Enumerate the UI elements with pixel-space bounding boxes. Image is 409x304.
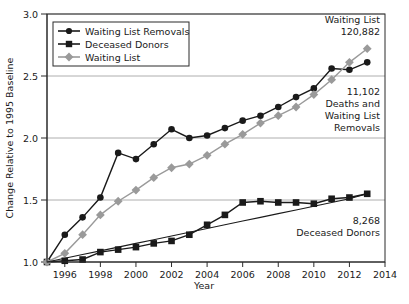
x-tick-labels: 1996199820002002200420062008201020122014 — [53, 269, 397, 280]
x-tick-label-2010: 2010 — [302, 269, 326, 280]
data-point — [293, 199, 300, 206]
y-tick-label-1-5: 1.5 — [23, 195, 38, 206]
donors-annotation-line-1: 8,268 — [353, 215, 380, 226]
chart-container: 3.0 2.5 2.0 1.5 1.0 19961998200020022004… — [0, 0, 409, 304]
removals-annotation-line-1: 11,102 — [347, 86, 380, 97]
legend-label-donors: Deceased Donors — [85, 39, 169, 50]
data-point — [79, 214, 86, 221]
x-tick-label-2004: 2004 — [195, 269, 219, 280]
y-tick-label-3-0: 3.0 — [23, 9, 38, 20]
data-point — [364, 59, 371, 66]
data-point — [275, 104, 282, 111]
donors-annotation-line-2: Deceased Donors — [296, 227, 380, 238]
x-tick-label-2012: 2012 — [337, 269, 361, 280]
chart-svg: 3.0 2.5 2.0 1.5 1.0 19961998200020022004… — [0, 0, 409, 304]
x-tick-label-2006: 2006 — [231, 269, 255, 280]
data-point — [150, 141, 157, 148]
y-axis-title: Change Relative to 1995 Baseline — [4, 57, 15, 218]
data-point — [97, 249, 104, 256]
legend-marker-square — [66, 41, 72, 47]
data-point — [346, 67, 353, 74]
legend-marker-circle — [66, 28, 72, 34]
y-tick-label-1-0: 1.0 — [23, 257, 38, 268]
data-point — [186, 135, 193, 142]
data-point — [239, 117, 246, 124]
data-point — [222, 212, 229, 219]
legend-label-waitlist: Waiting List — [85, 52, 141, 63]
data-point — [328, 65, 335, 72]
x-axis-title: Year — [193, 280, 214, 291]
data-point — [168, 126, 175, 133]
data-point — [257, 112, 264, 119]
data-point — [275, 199, 282, 206]
data-point — [204, 132, 211, 139]
x-tick-label-2008: 2008 — [266, 269, 290, 280]
x-tick-label-2000: 2000 — [124, 269, 148, 280]
x-tick-label-1996: 1996 — [53, 269, 77, 280]
removals-annotation-line-3: Waiting List — [325, 110, 381, 121]
y-tick-label-2-0: 2.0 — [23, 133, 38, 144]
data-point — [61, 231, 68, 238]
x-tick-label-2014: 2014 — [373, 269, 397, 280]
data-point — [239, 199, 246, 206]
chart-legend: Waiting List Removals Deceased Donors Wa… — [53, 22, 189, 66]
removals-annotation-line-4: Removals — [334, 122, 380, 133]
data-point — [168, 238, 175, 245]
data-point — [293, 94, 300, 101]
data-point — [115, 150, 122, 157]
data-point — [133, 244, 140, 251]
data-point — [257, 198, 264, 205]
removals-annotation-line-2: Deaths and — [325, 98, 380, 109]
data-point — [364, 191, 371, 198]
data-point — [150, 240, 157, 247]
data-point — [328, 195, 335, 202]
y-tick-labels: 3.0 2.5 2.0 1.5 1.0 — [23, 9, 38, 268]
legend-label-removals: Waiting List Removals — [85, 26, 189, 37]
x-tick-label-1998: 1998 — [88, 269, 112, 280]
waiting-list-annotation-line-1: Waiting List — [325, 14, 381, 25]
y-tick-label-2-5: 2.5 — [23, 71, 38, 82]
x-tick-marks — [65, 262, 385, 267]
data-point — [133, 156, 140, 163]
x-tick-label-2002: 2002 — [159, 269, 183, 280]
data-point — [222, 125, 229, 132]
y-tick-marks — [41, 14, 47, 262]
data-point — [346, 194, 353, 201]
data-point — [97, 194, 104, 201]
waiting-list-annotation-line-2: 120,882 — [341, 26, 380, 37]
data-point — [204, 222, 211, 229]
